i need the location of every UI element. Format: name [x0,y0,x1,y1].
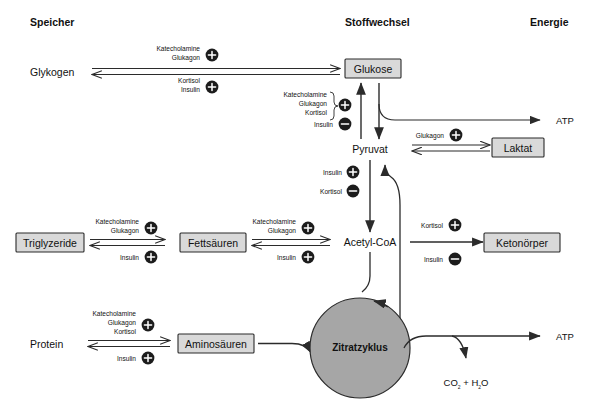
regulator-gluconeo-line2: Glukagon [299,100,328,108]
sign-plus-proteolyse-up [142,319,155,332]
sign-minus-gluconeo [339,118,352,131]
regulator-glykogen-dn-line2: Insulin [181,86,200,93]
node-co2-h2o: CO2 + H2O [444,377,489,390]
node-protein: Protein [30,338,63,350]
co2-h2o-plus: + H [461,377,479,388]
co2-h2o-c: CO [444,377,458,388]
regulator-pdh-inh-line1: Kortisol [320,188,343,195]
regulator-proteolyse-line3: Kortisol [114,328,137,335]
sign-plus-glykogen-dn [206,81,219,94]
column-header-energie: Energie [530,16,569,28]
regulator-proteolyse-line1: Katecholamine [92,310,136,317]
regulator-lipolyse-dn-line1: Insulin [120,254,139,261]
regulator-lipolyse-line1: Katecholamine [95,218,139,225]
sign-minus-pdh [347,185,360,198]
node-laktat: Laktat [492,138,544,157]
regulator-gluconeo-line1: Katecholamine [283,91,327,98]
arrow-cycle-to-atp [404,336,540,348]
regulator-ketogenese-inh-line1: Insulin [424,256,443,263]
regulator-glykogen-dn-line1: Kortisol [178,77,201,84]
regulator-laktat-line1: Glukagon [416,132,445,140]
node-triglyzeride-label: Triglyzeride [23,237,77,249]
node-acetyl-coa: Acetyl-CoA [344,236,397,248]
metabolism-diagram: Speicher Stoffwechsel Energie Glykogen K… [0,0,600,417]
column-header-stoffwechsel: Stoffwechsel [345,16,410,28]
connector-acetylcoa-to-cycle [362,252,370,292]
node-laktat-label: Laktat [504,142,533,154]
brace-pyruvat-to-glukose [330,92,338,120]
regulator-gluconeo-line3: Kortisol [305,109,328,116]
sign-plus-pdh [347,166,360,179]
co2-h2o-tail: O [481,377,488,388]
sign-plus-ketogenese [449,219,462,232]
node-glukose-label: Glukose [354,63,393,75]
node-pyruvat: Pyruvat [352,143,388,155]
regulator-betaox-line1: Katecholamine [252,218,296,225]
regulator-proteolyse-line2: Glukagon [108,319,137,327]
regulator-gluconeo-inh-line1: Insulin [314,121,333,128]
node-ketonkoerper-label: Ketonörper [496,237,548,249]
arrow-cycle-to-pyruvat [385,165,400,205]
regulator-betaox-dn-line1: Insulin [277,254,296,261]
arrow-cycle-to-co2-h2o [452,336,466,358]
sign-plus-lipolyse-up [145,222,158,235]
sign-plus-lipolyse-dn [145,251,158,264]
sign-minus-ketogenese [449,253,462,266]
node-aminosaeuren-label: Aminosäuren [185,338,247,350]
sign-plus-betaox-dn [302,251,315,264]
node-atp-bottom: ATP [556,331,574,342]
node-triglyzeride: Triglyzeride [16,233,84,252]
sign-plus-glykogen-up [206,49,219,62]
regulator-glykogen-up-line2: Glukagon [172,54,201,62]
sign-plus-proteolyse-dn [142,352,155,365]
regulator-ketogenese-line1: Kortisol [421,222,444,229]
regulator-proteolyse-dn-line1: Insulin [117,355,136,362]
column-header-speicher: Speicher [30,16,74,28]
node-zitratzyklus-label: Zitratzyklus [332,342,388,353]
regulator-pdh-line1: Insulin [323,169,342,176]
node-atp-top: ATP [556,115,574,126]
regulator-betaox-line2: Glukagon [268,227,297,235]
arrow-aminosaeuren-to-cycle [258,344,311,353]
sign-plus-betaox-up [302,222,315,235]
sign-plus-gluconeo [339,99,352,112]
node-glukose: Glukose [345,59,401,78]
node-aminosaeuren: Aminosäuren [178,334,254,353]
node-glykogen: Glykogen [30,66,75,78]
sign-plus-laktat [450,129,463,142]
regulator-lipolyse-line2: Glukagon [111,227,140,235]
arrow-glykolyse-to-atp [379,104,540,120]
node-ketonkoerper: Ketonörper [484,233,560,252]
regulator-glykogen-up-line1: Katecholamine [156,45,200,52]
node-fettsaeuren-label: Fettsäuren [188,237,238,249]
node-fettsaeuren: Fettsäuren [180,233,246,252]
diagram-canvas: Speicher Stoffwechsel Energie Glykogen K… [0,0,600,417]
